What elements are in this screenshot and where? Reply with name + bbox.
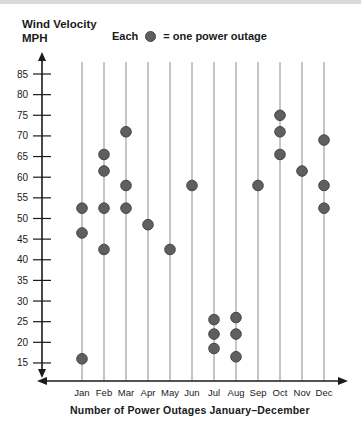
y-tick-label-70: 70 (17, 130, 29, 141)
y-tick-label-40: 40 (17, 254, 29, 265)
outage-dot (121, 203, 132, 214)
outage-dot (275, 110, 286, 121)
y-tick-label-85: 85 (17, 69, 29, 80)
outage-dot (209, 343, 220, 354)
outage-dot (209, 329, 220, 340)
y-tick-label-35: 35 (17, 275, 29, 286)
month-label-jan: Jan (74, 387, 89, 398)
outage-dot (99, 244, 110, 255)
outage-dot (253, 180, 264, 191)
y-axis-arrow-down-icon (38, 369, 46, 378)
outage-dot (165, 244, 176, 255)
month-label-apr: Apr (141, 387, 156, 398)
y-tick-label-15: 15 (17, 357, 29, 368)
month-label-jun: Jun (184, 387, 199, 398)
outage-dot (319, 180, 330, 191)
outage-dot (121, 180, 132, 191)
month-label-jul: Jul (208, 387, 220, 398)
outage-dot (209, 314, 220, 325)
outage-dot (143, 219, 154, 230)
month-label-may: May (161, 387, 179, 398)
y-tick-label-65: 65 (17, 151, 29, 162)
outage-dot (319, 203, 330, 214)
outage-dot (187, 180, 198, 191)
y-tick-label-75: 75 (17, 110, 29, 121)
outage-dot (297, 166, 308, 177)
y-tick-label-80: 80 (17, 89, 29, 100)
month-label-feb: Feb (96, 387, 112, 398)
outage-dot (99, 203, 110, 214)
month-label-sep: Sep (250, 387, 267, 398)
y-tick-label-50: 50 (17, 213, 29, 224)
x-axis-caption: Number of Power Outages January–December (70, 404, 310, 416)
y-tick-label-45: 45 (17, 234, 29, 245)
chart-canvas: 858075706560555045403530252015JanFebMarA… (0, 0, 361, 431)
x-axis-arrow-right-icon (338, 377, 348, 385)
month-label-nov: Nov (294, 387, 311, 398)
outage-dot (121, 126, 132, 137)
outage-dot (231, 329, 242, 340)
outage-dot (275, 149, 286, 160)
outage-dot (99, 166, 110, 177)
outage-dot (275, 126, 286, 137)
month-label-mar: Mar (118, 387, 134, 398)
y-tick-label-60: 60 (17, 172, 29, 183)
y-tick-label-25: 25 (17, 316, 29, 327)
x-axis-arrow-left-icon (37, 377, 47, 385)
outage-dot (77, 203, 88, 214)
outage-dot (319, 135, 330, 146)
y-tick-label-30: 30 (17, 296, 29, 307)
y-axis-arrow-up-icon (38, 52, 46, 61)
outage-dot (231, 351, 242, 362)
month-label-dec: Dec (316, 387, 333, 398)
y-tick-label-55: 55 (17, 192, 29, 203)
month-label-aug: Aug (228, 387, 245, 398)
y-tick-label-20: 20 (17, 337, 29, 348)
outage-dot (99, 149, 110, 160)
outage-dot (231, 312, 242, 323)
outage-dot (77, 228, 88, 239)
outage-dot (77, 354, 88, 365)
month-label-oct: Oct (273, 387, 288, 398)
